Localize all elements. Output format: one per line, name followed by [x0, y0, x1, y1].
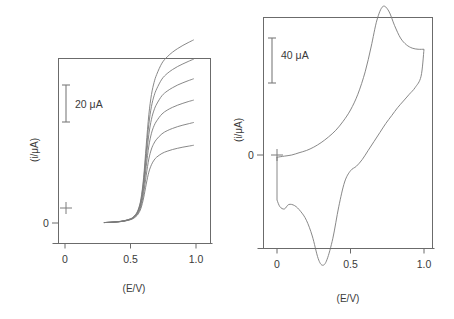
right-y-axis-label: (i/μA)	[233, 118, 244, 142]
left-origin-marker	[60, 202, 72, 214]
left-axis-group: 00.51.0	[53, 244, 213, 265]
left-voltammogram-curve-4	[104, 79, 193, 223]
right-origin-marker	[271, 149, 283, 161]
right-x-tick-label: 0	[274, 258, 280, 270]
left-scale-bar: 20 μA	[62, 85, 103, 122]
right-x-tick-label: 0.5	[343, 258, 358, 270]
right-x-axis-label: (E/V)	[337, 293, 360, 304]
right-panel-chart: 00.51.0 40 μA 0 (i/μA) (E/V)	[220, 0, 454, 319]
left-panel-chart: 00.51.0 20 μA 0 (i/μA) (E/V)	[0, 0, 232, 319]
right-cyclic-voltammogram-loop	[277, 6, 424, 265]
left-curve-group	[104, 40, 193, 223]
left-x-tick-label: 1.0	[189, 253, 204, 265]
left-x-tick-label: 0	[62, 253, 68, 265]
voltammetry-figure: 00.51.0 20 μA 0 (i/μA) (E/V) 00.51.0 40 …	[0, 0, 454, 319]
left-y-axis-label: (i/μA)	[29, 138, 40, 162]
left-scale-bar-label: 20 μA	[75, 98, 103, 110]
left-x-axis-label: (E/V)	[123, 283, 146, 294]
left-voltammogram-curve-6	[104, 40, 193, 223]
right-curve-group	[277, 6, 424, 265]
left-y-zero-label: 0	[43, 217, 49, 229]
right-y-zero-label: 0	[248, 149, 254, 161]
right-scale-bar-label: 40 μA	[281, 49, 309, 61]
right-scale-bar: 40 μA	[268, 38, 309, 83]
right-x-tick-label: 1.0	[417, 258, 432, 270]
right-axis-group: 00.51.0	[258, 249, 435, 270]
left-x-tick-label: 0.5	[123, 253, 138, 265]
